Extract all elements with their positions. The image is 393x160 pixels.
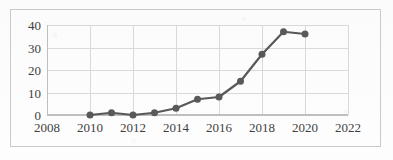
data-point-marker [87,112,94,119]
x-tick-label: 2010 [67,121,113,134]
plot-area [47,25,348,115]
x-tick-label: 2022 [325,121,371,134]
x-tick-label: 2014 [153,121,199,134]
gridline-vertical [348,25,349,115]
data-point-marker [302,31,309,38]
x-tick-label: 2012 [110,121,156,134]
x-tick-label: 2018 [239,121,285,134]
chart-figure: 010203040 200820102012201420162018202020… [0,0,393,160]
x-tick-label: 2020 [282,121,328,134]
line-series [47,25,348,115]
x-tick-label: 2008 [24,121,70,134]
data-point-marker [280,28,287,35]
data-point-marker [237,78,244,85]
data-point-marker [173,105,180,112]
data-point-marker [194,96,201,103]
data-point-marker [130,112,137,119]
data-point-marker [108,109,115,116]
data-point-marker [216,94,223,101]
x-tick-label: 2016 [196,121,242,134]
data-point-marker [259,51,266,58]
data-point-marker [151,109,158,116]
